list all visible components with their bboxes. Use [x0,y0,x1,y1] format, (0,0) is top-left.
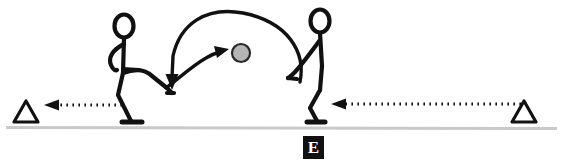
diagram-canvas: E [0,0,563,167]
right-movement-arrowhead [331,99,346,110]
right-player-head [311,10,330,33]
right-player-receiving [288,10,330,123]
left-player-standing-leg [118,73,131,121]
left-player-kicking [110,15,174,123]
marker-label-e: E [303,136,324,159]
ball [232,44,250,62]
right-movement-arrow [331,99,527,110]
right-cone-marker [512,101,536,122]
left-player-kicking-leg [123,70,172,93]
left-player-head [115,15,134,38]
right-player-leg [310,90,320,121]
left-cone-marker [14,101,38,122]
kick-direction-arrowhead [214,46,229,58]
left-movement-arrowhead [44,100,59,111]
ground-line [6,128,557,129]
diagram-svg [0,0,563,167]
left-movement-arrow [44,100,122,111]
right-player-hand [288,78,297,79]
